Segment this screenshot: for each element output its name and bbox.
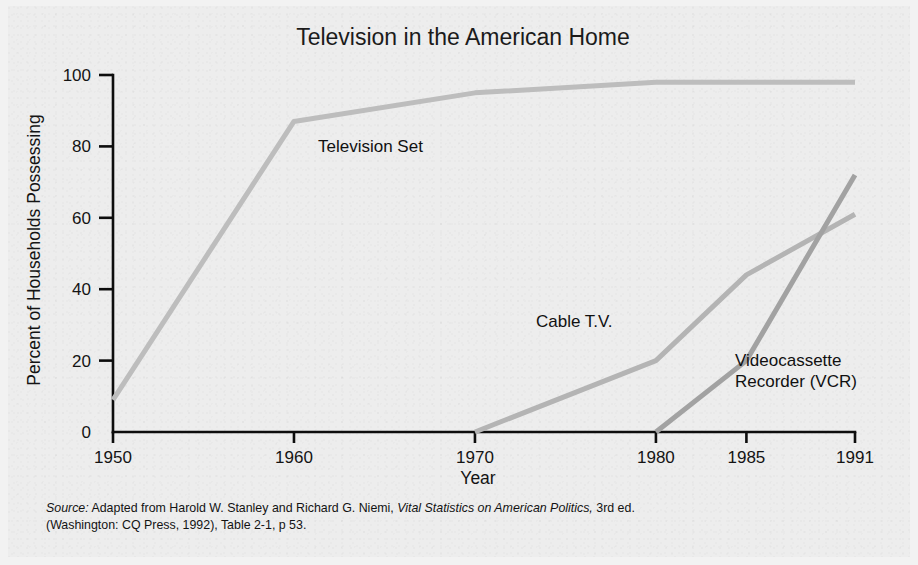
y-axis-title: Percent of Households Possessing: [24, 114, 44, 385]
data-series-line: [656, 175, 855, 432]
x-tick-label: 1960: [275, 448, 313, 467]
source-book-title: Vital Statistics on American Politics,: [397, 501, 593, 515]
x-tick-label: 1991: [836, 448, 874, 467]
line-chart: Television in the American Home Percent …: [0, 0, 918, 565]
x-tick-label: 1985: [728, 448, 766, 467]
series-label-line: Recorder (VCR): [735, 372, 857, 391]
y-tick-label: 60: [72, 209, 91, 228]
source-line1-tail: 3rd ed.: [593, 501, 635, 515]
y-tick-label: 100: [63, 66, 91, 85]
x-axis-title: Year: [460, 468, 496, 488]
source-line1-rest: Adapted from Harold W. Stanley and Richa…: [89, 501, 398, 515]
x-tick-label: 1980: [637, 448, 675, 467]
y-tick-label: 20: [72, 352, 91, 371]
figure-container: Television in the American Home Percent …: [0, 0, 918, 565]
series-label-group: Television SetCable T.V.VideocassetteRec…: [318, 137, 857, 391]
x-axis-ticks: 195019601970198019851991: [94, 432, 874, 467]
chart-title: Television in the American Home: [296, 24, 630, 50]
y-tick-label: 80: [72, 137, 91, 156]
source-line2: (Washington: CQ Press, 1992), Table 2-1,…: [46, 518, 306, 532]
data-series-line: [475, 214, 855, 432]
y-tick-label: 0: [82, 423, 91, 442]
y-tick-label: 40: [72, 280, 91, 299]
x-tick-label: 1950: [94, 448, 132, 467]
series-label-line: Videocassette: [735, 351, 841, 370]
x-tick-label: 1970: [456, 448, 494, 467]
source-note: Source: Adapted from Harold W. Stanley a…: [46, 500, 876, 533]
series-label: Cable T.V.: [536, 312, 613, 331]
series-label: Television Set: [318, 137, 423, 156]
source-label: Source:: [46, 501, 89, 515]
y-axis-ticks: 020406080100: [63, 66, 113, 442]
series-label: VideocassetteRecorder (VCR): [735, 351, 857, 391]
